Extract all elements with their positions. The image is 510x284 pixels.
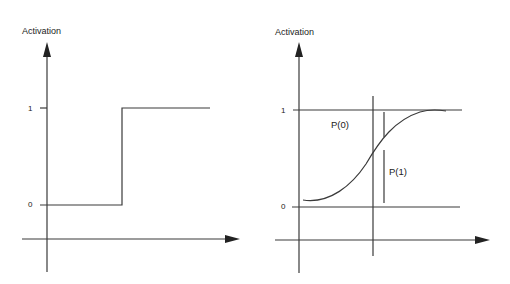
right-y-axis-label: Activation: [275, 27, 314, 37]
p1-label: P(1): [389, 166, 407, 177]
left-y-axis-arrow-icon: [43, 42, 51, 57]
left-x-axis-arrow-icon: [225, 235, 240, 243]
right-tick-one-label: 1: [281, 106, 286, 115]
left-y-axis-label: Activation: [22, 26, 61, 36]
step-function-curve: [40, 108, 210, 205]
activation-diagram: Activation 1 0 Activation 1 0 P(0) P(1): [0, 0, 510, 284]
left-tick-zero-label: 0: [28, 200, 33, 209]
sigmoid-curve: [303, 110, 446, 201]
left-tick-one-label: 1: [28, 104, 33, 113]
left-step-plot: [22, 52, 228, 272]
right-sigmoid-plot: [275, 52, 478, 273]
right-x-axis-arrow-icon: [475, 236, 490, 244]
right-tick-zero-label: 0: [281, 202, 286, 211]
p0-label: P(0): [331, 119, 349, 130]
right-y-axis-arrow-icon: [295, 42, 303, 57]
